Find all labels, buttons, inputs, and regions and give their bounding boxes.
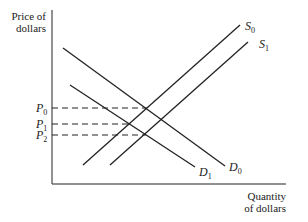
y-axis-title-line1: Price of <box>0 10 46 22</box>
y-axis-title-line2: dollars <box>0 22 46 34</box>
curve-s1 <box>110 42 248 165</box>
x-axis-title-line1: Quantity <box>240 190 286 202</box>
curve-d0 <box>63 48 225 166</box>
label-d0: D0 <box>229 161 242 178</box>
label-p2: P2 <box>36 129 47 146</box>
curve-s0 <box>83 25 240 165</box>
x-axis-title-line2: of dollars <box>240 202 286 214</box>
label-s1: S1 <box>259 38 269 55</box>
y-axis-title: Price of dollars <box>0 10 46 34</box>
label-d1: D1 <box>199 166 212 183</box>
x-axis-title: Quantity of dollars <box>240 190 286 214</box>
label-s0: S0 <box>245 20 255 37</box>
curve-d1 <box>70 85 195 167</box>
